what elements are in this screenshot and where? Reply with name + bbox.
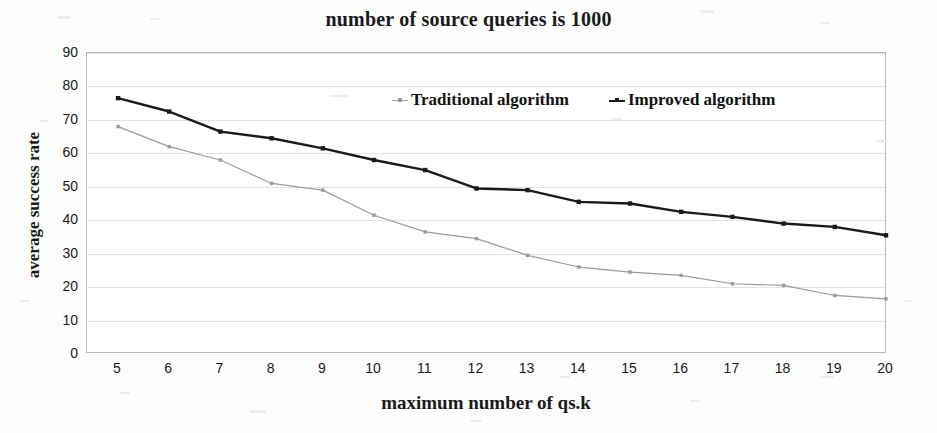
data-point-marker	[833, 294, 836, 297]
data-point-marker	[679, 210, 683, 214]
y-tick-30: 30	[8, 245, 78, 261]
data-point-marker	[219, 158, 222, 161]
series-improved	[116, 96, 888, 238]
x-axis-label: maximum number of qs.k	[86, 392, 886, 414]
chart-legend: Traditional algorithmImproved algorithm	[392, 90, 775, 110]
y-tick-10: 10	[8, 312, 78, 328]
data-point-marker	[269, 136, 273, 140]
data-point-marker	[270, 182, 273, 185]
data-point-marker	[321, 188, 324, 191]
data-point-marker	[628, 201, 632, 205]
x-tick-8: 8	[251, 360, 291, 376]
data-point-marker	[116, 125, 119, 128]
chart-figure: number of source queries is 1000 average…	[0, 0, 937, 433]
chart-title: number of source queries is 1000	[0, 8, 937, 31]
x-tick-7: 7	[199, 360, 239, 376]
legend-line-icon	[609, 95, 625, 106]
y-axis-tick-labels: 0102030405060708090	[8, 52, 78, 353]
data-point-marker	[577, 265, 580, 268]
data-point-marker	[525, 188, 529, 192]
legend-line-icon	[392, 95, 408, 106]
x-tick-13: 13	[507, 360, 547, 376]
y-tick-0: 0	[8, 345, 78, 361]
x-tick-12: 12	[455, 360, 495, 376]
legend-label: Traditional algorithm	[411, 90, 569, 110]
data-point-marker	[167, 109, 171, 113]
x-tick-17: 17	[711, 360, 751, 376]
x-tick-11: 11	[404, 360, 444, 376]
data-point-marker	[577, 200, 581, 204]
x-tick-9: 9	[302, 360, 342, 376]
data-point-marker	[116, 96, 120, 100]
scan-artifact	[560, 376, 570, 378]
x-tick-16: 16	[660, 360, 700, 376]
data-point-marker	[475, 237, 478, 240]
scan-artifact	[820, 376, 834, 378]
series-line	[118, 127, 886, 299]
scan-artifact	[470, 420, 482, 422]
series-traditional	[116, 125, 887, 301]
data-point-marker	[833, 225, 837, 229]
data-point-marker	[526, 254, 529, 257]
y-tick-40: 40	[8, 211, 78, 227]
series-line	[118, 98, 886, 235]
data-point-marker	[680, 274, 683, 277]
data-point-marker	[730, 215, 734, 219]
x-tick-6: 6	[148, 360, 188, 376]
legend-item-traditional[interactable]: Traditional algorithm	[392, 90, 569, 110]
data-point-marker	[321, 146, 325, 150]
y-tick-20: 20	[8, 278, 78, 294]
legend-label: Improved algorithm	[628, 90, 776, 110]
legend-item-improved[interactable]: Improved algorithm	[609, 90, 776, 110]
data-point-marker	[218, 129, 222, 133]
data-point-marker	[474, 186, 478, 190]
data-point-marker	[628, 270, 631, 273]
data-point-marker	[731, 282, 734, 285]
data-point-marker	[884, 297, 887, 300]
data-point-marker	[423, 168, 427, 172]
x-tick-19: 19	[814, 360, 854, 376]
data-point-marker	[372, 214, 375, 217]
y-tick-60: 60	[8, 144, 78, 160]
scan-artifact	[905, 300, 913, 302]
y-tick-90: 90	[8, 44, 78, 60]
x-tick-5: 5	[97, 360, 137, 376]
y-tick-80: 80	[8, 77, 78, 93]
x-tick-20: 20	[865, 360, 905, 376]
y-tick-70: 70	[8, 111, 78, 127]
x-tick-10: 10	[353, 360, 393, 376]
data-point-marker	[424, 230, 427, 233]
data-point-marker	[781, 221, 785, 225]
x-tick-15: 15	[609, 360, 649, 376]
x-tick-14: 14	[558, 360, 598, 376]
data-point-marker	[168, 145, 171, 148]
data-point-marker	[884, 233, 888, 237]
x-tick-18: 18	[763, 360, 803, 376]
y-tick-50: 50	[8, 178, 78, 194]
data-point-marker	[782, 284, 785, 287]
data-point-marker	[372, 158, 376, 162]
